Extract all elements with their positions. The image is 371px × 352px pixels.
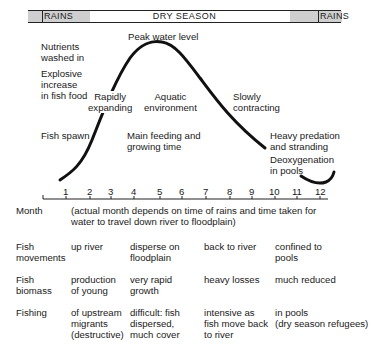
table-cell: confined to pools [275,241,322,263]
nutrients-label: Nutrients washed in [41,41,84,63]
deox-line: Deoxygenation [270,154,334,165]
explosive-line: Explosive [41,68,87,79]
fish-spawn-label: Fish spawn [41,130,90,141]
table-cell: of upstream migrants (destructive) [71,307,124,340]
predation-line: and stranding [270,141,340,152]
cell-line: disperse on [130,241,180,252]
cell-line: to river [204,329,268,340]
heavy-predation-label: Heavy predation and stranding [270,130,340,152]
nutrients-line: Nutrients [41,41,84,52]
aquatic-line: environment [144,102,197,113]
rapidly-line: expanding [88,102,132,113]
cell-line: of upstream [71,307,124,318]
table-cell: difficult: fish dispersed, much cover [130,307,180,340]
cell-line: migrants [71,318,124,329]
month-note-line: (actual month depends on time of rains a… [71,205,316,216]
row-label-line: Fish [16,274,52,285]
table-cell: disperse on floodplain [130,241,180,263]
row-label-line: biomass [16,285,52,296]
cell-line: very rapid [130,274,172,285]
tick-label-6: 6 [179,186,184,197]
nutrients-line: washed in [41,52,84,63]
cell-line: much cover [130,329,180,340]
tick-label-9: 9 [249,186,254,197]
explosive-line: in fish food [41,90,87,101]
cell-line: fish move back [204,318,268,329]
slowly-line: Slowly [233,91,280,102]
table-cell: heavy losses [204,274,259,285]
aquatic-environment-label: Aquatic environment [144,91,197,113]
cell-line: dispersed, [130,318,180,329]
row-label-line: movements [16,252,66,263]
table-cell: production of young [71,274,116,296]
cell-line: pools [275,252,322,263]
table-cell: back to river [204,241,256,252]
slowly-contracting-label: Slowly contracting [233,91,280,113]
table-cell: intensive as fish move back to river [204,307,268,340]
tick-label-3: 3 [108,186,113,197]
cell-line: in pools [275,307,368,318]
table-cell: very rapid growth [130,274,172,296]
month-label: Month [16,205,43,216]
tick-label-2: 2 [87,186,92,197]
cell-line: confined to [275,241,322,252]
tick-label-4: 4 [131,186,136,197]
month-note-line: water to travel down river to floodplain… [71,216,316,227]
tick-label-12: 12 [315,186,326,197]
tick-label-11: 11 [292,186,302,197]
row-label: Fish biomass [16,274,52,296]
table-cell: in pools (dry season refugees) [275,307,368,329]
cell-line: intensive as [204,307,268,318]
tick-label-8: 8 [227,186,232,197]
cell-line: (destructive) [71,329,124,340]
cell-line: of young [71,285,116,296]
row-label-line: Fish [16,241,66,252]
cell-line: production [71,274,116,285]
main-feeding-label: Main feeding and growing time [127,130,201,152]
table-cell: up river [71,241,103,252]
cell-line: (dry season refugees) [275,318,368,329]
explosive-label: Explosive increase in fish food [41,68,87,101]
peak-label: Peak water level [128,31,198,42]
cell-line: growth [130,285,172,296]
table-cell: much reduced [275,274,336,285]
tick-label-1: 1 [63,186,68,197]
tick-label-7: 7 [203,186,208,197]
predation-line: Heavy predation [270,130,340,141]
tick-label-10: 10 [269,186,280,197]
feeding-line: growing time [127,141,201,152]
cell-line: floodplain [130,252,180,263]
row-label: Fish movements [16,241,66,263]
explosive-line: increase [41,79,87,90]
aquatic-line: Aquatic [144,91,197,102]
cell-line: difficult: fish [130,307,180,318]
month-note: (actual month depends on time of rains a… [71,205,316,227]
rapidly-line: Rapidly [88,91,132,102]
feeding-line: Main feeding and [127,130,201,141]
deox-line: in pools [270,165,334,176]
deoxygenation-label: Deoxygenation in pools [270,154,334,176]
tick-label-5: 5 [157,186,162,197]
rapidly-expanding-label: Rapidly expanding [88,91,132,113]
slowly-line: contracting [233,102,280,113]
row-label: Fishing [16,307,47,318]
